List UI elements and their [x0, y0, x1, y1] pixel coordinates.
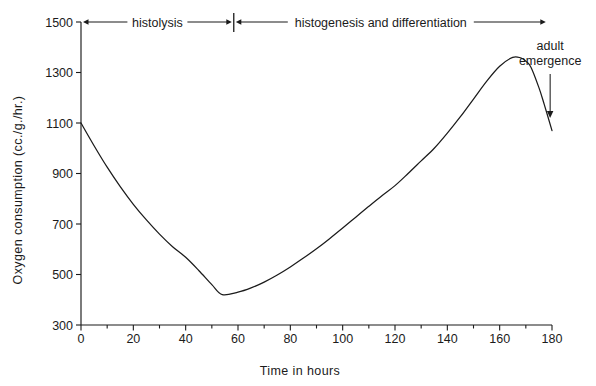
y-tick-label: 500: [52, 268, 73, 282]
chart-canvas: 300500700900110013001500 020406080100120…: [0, 0, 596, 386]
y-tick-label: 1100: [46, 117, 73, 131]
data-series-line: [81, 57, 552, 295]
x-axis-title: Time in hours: [260, 364, 340, 378]
x-tick-label: 20: [126, 332, 140, 346]
x-tick-label: 160: [489, 332, 510, 346]
y-axis-title: Oxygen consumption (cc./g./hr.): [11, 96, 25, 285]
x-tick-label: 60: [231, 332, 245, 346]
histogenesis-label: histogenesis and differentiation: [295, 16, 467, 30]
x-tick-label: 180: [542, 332, 563, 346]
adult-emergence-label-line2: emergence: [519, 54, 582, 68]
annotation-arrow-head: [540, 19, 546, 25]
annotation-histolysis: histolysis: [83, 16, 232, 30]
y-axis-tick-labels: 300500700900110013001500: [45, 16, 73, 333]
annotation-arrow-head: [83, 19, 89, 25]
histolysis-label: histolysis: [132, 16, 183, 30]
x-tick-label: 80: [283, 332, 297, 346]
annotation-arrow-head: [226, 19, 232, 25]
x-tick-label: 120: [385, 332, 406, 346]
axes-group: [81, 22, 552, 325]
x-axis-tick-labels: 020406080100120140160180: [78, 332, 563, 346]
oxygen-consumption-chart: 300500700900110013001500 020406080100120…: [0, 0, 596, 386]
x-tick-label: 100: [332, 332, 353, 346]
x-axis-ticks: [81, 325, 552, 331]
adult-emergence-label-line1: adult: [537, 39, 565, 53]
annotation-arrow-head: [236, 19, 242, 25]
y-tick-label: 1500: [45, 16, 73, 30]
x-tick-label: 40: [179, 332, 193, 346]
annotation-adult-emergence: adult emergence: [519, 39, 582, 118]
annotation-histogenesis: histogenesis and differentiation: [236, 16, 546, 30]
phase-annotation-group: histolysis histogenesis and differentiat…: [83, 13, 546, 32]
y-tick-label: 300: [52, 319, 73, 333]
y-axis-ticks: [76, 22, 81, 325]
x-tick-label: 140: [437, 332, 458, 346]
y-tick-label: 700: [52, 218, 73, 232]
y-tick-label: 1300: [45, 66, 73, 80]
x-tick-label: 0: [78, 332, 85, 346]
y-tick-label: 900: [52, 167, 73, 181]
